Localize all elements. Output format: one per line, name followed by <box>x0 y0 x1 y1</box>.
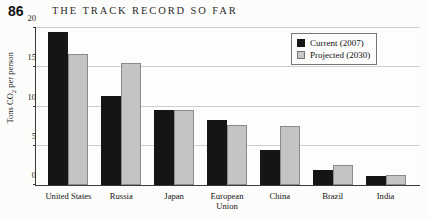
bar-projected <box>280 126 300 185</box>
bar-projected <box>333 165 353 185</box>
bar-current <box>366 176 386 185</box>
bar-projected <box>386 175 406 185</box>
legend-entry: Current (2007) <box>297 37 370 49</box>
bar-projected <box>121 63 141 185</box>
bar-current <box>207 120 227 185</box>
square-swatch-icon <box>297 51 305 59</box>
bar-projected <box>174 110 194 185</box>
chart-legend: Current (2007)Projected (2030) <box>291 33 377 65</box>
bar-chart: Tons CO2 per person 05101520 United Stat… <box>0 24 429 219</box>
page-title: THE TRACK RECORD SO FAR <box>52 5 238 16</box>
bar-projected <box>227 125 247 185</box>
bar-group <box>154 28 194 185</box>
square-swatch-icon <box>297 39 305 47</box>
bar-group <box>101 28 141 185</box>
y-tick-mark <box>33 106 36 107</box>
x-axis-category-label: India <box>346 192 426 202</box>
y-tick-label: 15 <box>6 52 36 62</box>
bar-projected <box>68 54 88 185</box>
y-tick-label: 20 <box>6 13 36 23</box>
legend-label: Projected (2030) <box>310 50 370 60</box>
bar-current <box>101 96 121 185</box>
y-tick-label: 0 <box>6 170 36 180</box>
bar-current <box>260 150 280 185</box>
y-tick-mark <box>33 184 36 185</box>
x-axis-line <box>35 185 420 186</box>
y-tick-label: 5 <box>6 131 36 141</box>
legend-label: Current (2007) <box>310 38 364 48</box>
legend-entry: Projected (2030) <box>297 49 370 61</box>
y-tick-mark <box>33 145 36 146</box>
y-tick-mark <box>33 66 36 67</box>
bar-group <box>48 28 88 185</box>
y-tick-label: 10 <box>6 92 36 102</box>
running-header: 86 THE TRACK RECORD SO FAR <box>0 3 429 23</box>
bar-current <box>154 110 174 185</box>
bar-current <box>48 32 68 185</box>
y-tick-mark <box>33 27 36 28</box>
bar-current <box>313 170 333 185</box>
bar-group <box>207 28 247 185</box>
book-page: 86 THE TRACK RECORD SO FAR Tons CO2 per … <box>0 0 429 219</box>
